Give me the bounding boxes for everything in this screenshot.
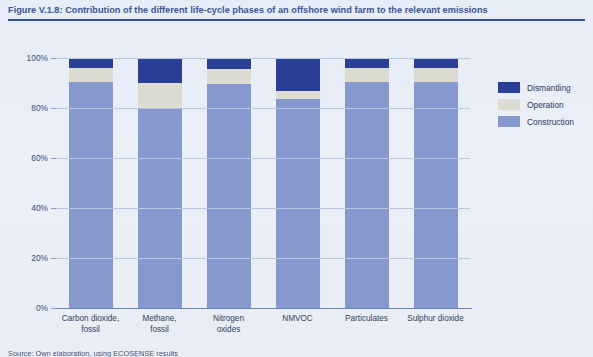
title-divider [8,19,585,21]
legend-label-dismantling: Dismantling [527,83,571,93]
y-axis-tick [51,208,56,209]
gridline [56,208,470,209]
bar-column [207,58,251,308]
legend-item-dismantling: Dismantling [498,80,574,95]
y-axis-tick [51,308,56,309]
bar-segment-dismantling [69,58,113,68]
legend-swatch-dismantling [498,82,520,93]
y-axis-tick [51,158,56,159]
y-axis-label: 80% [31,103,48,113]
bar-segment-dismantling [207,58,251,69]
bar-column [345,58,389,308]
plot-region: 0%20%40%60%80%100%Carbon dioxide, fossil… [56,58,470,308]
gridline [56,158,470,159]
legend-swatch-construction [498,116,520,127]
bar-segment-operation [207,69,251,84]
y-axis-label: 20% [31,253,48,263]
x-axis-label: Particulates [332,314,401,325]
y-axis-label: 0% [36,303,48,313]
bar-segment-operation [69,68,113,82]
bar-group [56,58,470,308]
bar-column [414,58,458,308]
x-axis-line [52,308,472,309]
bar-segment-construction [414,82,458,308]
y-axis-label: 40% [31,203,48,213]
figure-page: Figure V.1.8: Contribution of the differ… [0,0,593,357]
x-axis-label: NMVOC [263,314,332,325]
bar-segment-dismantling [138,58,182,83]
legend-label-operation: Operation [527,100,564,110]
bar-segment-construction [207,84,251,308]
legend-label-construction: Construction [527,117,574,127]
bar-segment-construction [345,82,389,308]
legend-item-operation: Operation [498,97,574,112]
y-axis-tick [51,258,56,259]
y-axis-tick [51,58,56,59]
bar-segment-dismantling [345,58,389,68]
legend-item-construction: Construction [498,114,574,129]
bar-segment-operation [414,68,458,82]
source-note: Source: Own elaboration, using ECOSENSE … [8,349,178,357]
bar-segment-construction [276,99,320,308]
bar-segment-dismantling [276,58,320,91]
gridline [56,108,470,109]
bar-segment-operation [276,91,320,100]
legend-swatch-operation [498,99,520,110]
x-axis-label: Sulphur dioxide [401,314,470,325]
gridline [56,258,470,259]
bar-segment-operation [138,83,182,109]
bar-column [276,58,320,308]
page-title: Figure V.1.8: Contribution of the differ… [8,4,585,16]
x-axis-label: Carbon dioxide, fossil [56,314,125,335]
y-axis-label: 60% [31,153,48,163]
y-axis-label: 100% [27,53,48,63]
x-axis-label: Nitrogen oxides [194,314,263,335]
bar-segment-dismantling [414,58,458,68]
gridline [56,58,470,59]
x-axis-label: Methane, fossil [125,314,194,335]
bar-column [138,58,182,308]
title-block: Figure V.1.8: Contribution of the differ… [8,4,585,21]
bar-column [69,58,113,308]
chart-legend: DismantlingOperationConstruction [498,80,574,131]
bar-segment-operation [345,68,389,82]
bar-segment-construction [69,82,113,308]
chart-area: 0%20%40%60%80%100%Carbon dioxide, fossil… [0,26,593,357]
y-axis-tick [51,108,56,109]
